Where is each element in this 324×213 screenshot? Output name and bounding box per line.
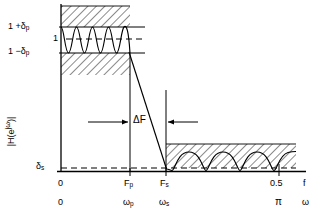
x-tick-w-zero-text: 0 xyxy=(58,197,63,207)
passband-ripple-curve xyxy=(61,26,130,53)
x-tick-pi: π xyxy=(275,197,282,207)
y-tick-one-plus-delta-p-text: 1 + xyxy=(8,21,21,31)
y-tick-delta-s: δs xyxy=(36,162,44,172)
x-tick-half: 0.5 xyxy=(270,179,283,188)
x-tick-w-zero: 0 xyxy=(58,198,63,207)
passband-upper-hatch-region xyxy=(61,6,130,27)
x-tick-wp-sub: p xyxy=(130,200,134,207)
x-tick-f-zero: 0 xyxy=(58,179,63,188)
x-tick-f-zero-text: 0 xyxy=(58,178,63,188)
y-tick-one-plus-delta-p-sub: p xyxy=(26,24,30,31)
y-tick-one: 1 xyxy=(53,34,58,43)
x-tick-ws: ωs xyxy=(159,198,169,208)
x-tick-fp-sub: p xyxy=(130,181,134,188)
y-axis-label-tail: )| xyxy=(6,117,16,122)
x-tick-half-text: 0.5 xyxy=(270,178,283,188)
filter-spec-figure: |H(ejω)| 1 +δp 1 1 −δp δs 0 Fp Fs 0.5 f … xyxy=(0,0,324,213)
x-tick-ws-text: ω xyxy=(159,197,166,207)
x-tick-fs: Fs xyxy=(160,179,169,189)
x-axis-name-w: ω xyxy=(302,198,309,207)
x-axis-name-f: f xyxy=(303,179,306,188)
y-tick-one-plus-delta-p: 1 +δp xyxy=(8,22,29,32)
y-axis-label-text: |H(e xyxy=(6,130,16,147)
x-tick-fp: Fp xyxy=(124,179,133,189)
y-tick-one-text: 1 xyxy=(53,33,58,43)
x-tick-wp: ωp xyxy=(123,198,134,208)
x-tick-pi-text: π xyxy=(275,196,282,207)
x-tick-ws-sub: s xyxy=(166,200,169,207)
y-tick-delta-s-sub: s xyxy=(41,164,44,171)
y-tick-one-minus-delta-p-sub: p xyxy=(26,49,30,56)
transition-band-slope xyxy=(129,52,167,169)
x-tick-fs-sub: s xyxy=(166,181,169,188)
annotation-delta-f: ΔF xyxy=(133,115,146,125)
passband-lower-hatch-region xyxy=(61,53,130,75)
x-tick-wp-text: ω xyxy=(123,197,130,207)
y-axis-label: |H(ejω)| xyxy=(3,97,16,167)
annotation-delta-f-text: ΔF xyxy=(133,114,146,125)
y-tick-one-minus-delta-p-text: 1 − xyxy=(8,46,21,56)
x-axis-name-w-text: ω xyxy=(302,197,309,207)
x-axis-name-f-text: f xyxy=(303,178,306,188)
y-axis-label-exponent: jω xyxy=(3,122,12,130)
y-tick-one-minus-delta-p: 1 −δp xyxy=(8,47,29,57)
